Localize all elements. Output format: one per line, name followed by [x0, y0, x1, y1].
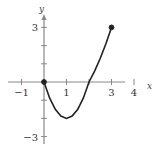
x-tick-label: 1	[63, 87, 69, 98]
y-tick-label: 3	[32, 22, 38, 33]
y-axis-arrow-icon	[42, 14, 47, 20]
x-tick-label: 4	[131, 87, 137, 98]
y-tick-label: −3	[23, 132, 38, 143]
x-tick-label: 3	[108, 87, 114, 98]
endpoints	[42, 25, 114, 84]
function-curve	[44, 27, 112, 118]
function-graph: −11343−3 y x	[0, 0, 153, 149]
endpoint-dot	[109, 25, 114, 30]
endpoint-dot	[42, 80, 47, 85]
x-tick-label: −1	[14, 87, 29, 98]
x-axis-label: x	[147, 81, 152, 91]
y-axis-label: y	[38, 4, 45, 14]
